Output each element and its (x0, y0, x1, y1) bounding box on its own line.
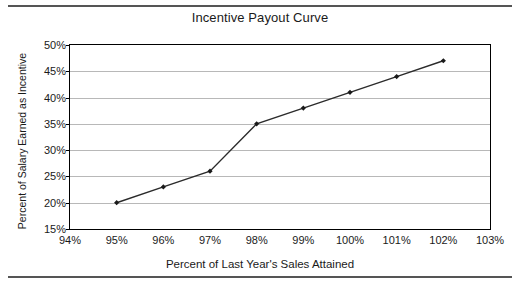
y-tick-mark (66, 229, 70, 230)
series-line (117, 61, 444, 203)
data-point-marker (161, 184, 166, 189)
data-point-marker (347, 90, 352, 95)
y-tick-label: 25% (44, 170, 66, 182)
y-tick-label: 30% (44, 144, 66, 156)
chart-title: Incentive Payout Curve (0, 10, 520, 25)
x-tick-label: 100% (336, 234, 364, 246)
x-tick-label: 101% (383, 234, 411, 246)
x-tick-label: 102% (429, 234, 457, 246)
y-axis-title: Percent of Salary Earned as Incentive (16, 41, 28, 241)
y-tick-label: 45% (44, 65, 66, 77)
x-axis-title: Percent of Last Year's Sales Attained (0, 258, 520, 270)
data-point-marker (394, 74, 399, 79)
y-tick-label: 40% (44, 92, 66, 104)
bottom-divider-rule (8, 276, 512, 278)
x-tick-label: 97% (199, 234, 221, 246)
data-point-marker (114, 200, 119, 205)
x-tick-label: 96% (152, 234, 174, 246)
data-point-marker (301, 105, 306, 110)
x-tick-label: 99% (292, 234, 314, 246)
x-tick-label: 94% (59, 234, 81, 246)
plot-area: 15%20%25%30%35%40%45%50% 94%95%96%97%98%… (69, 44, 491, 230)
top-divider-rule (8, 5, 512, 7)
data-series-svg (70, 45, 490, 229)
x-tick-label: 95% (106, 234, 128, 246)
y-tick-label: 20% (44, 197, 66, 209)
y-tick-label: 50% (44, 39, 66, 51)
data-point-marker (441, 58, 446, 63)
x-tick-label: 103% (476, 234, 504, 246)
y-tick-label: 35% (44, 118, 66, 130)
chart-page: Incentive Payout Curve Percent of Salary… (0, 0, 520, 284)
x-tick-label: 98% (246, 234, 268, 246)
